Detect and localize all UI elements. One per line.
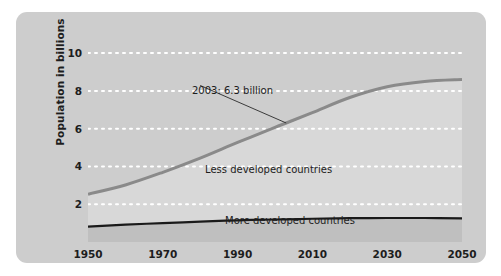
chart-screenshot: Population in billions 246810 Less devel…	[0, 0, 501, 276]
x-axis-ticks: 195019701990201020302050	[88, 248, 462, 264]
x-tick-label-1970: 1970	[148, 248, 177, 260]
x-tick-label-2050: 2050	[447, 248, 476, 260]
y-tick-label-2: 2	[56, 198, 82, 210]
y-tick-label-10: 10	[56, 47, 82, 59]
annotation-label-2003: 2003: 6.3 billion	[192, 85, 273, 96]
x-tick-label-1950: 1950	[73, 248, 102, 260]
y-axis-ticks: 246810	[54, 38, 82, 242]
series-label-less-developed: Less developed countries	[205, 164, 332, 175]
x-tick-label-2010: 2010	[298, 248, 327, 260]
chart-svg	[88, 38, 462, 242]
y-tick-label-6: 6	[56, 123, 82, 135]
y-tick-label-4: 4	[56, 160, 82, 172]
chart-panel: Population in billions 246810 Less devel…	[16, 12, 486, 263]
x-tick-label-2030: 2030	[373, 248, 402, 260]
y-tick-label-8: 8	[56, 85, 82, 97]
series-label-more-developed: More developed countries	[225, 215, 355, 226]
x-tick-label-1990: 1990	[223, 248, 252, 260]
plot-area: Less developed countries More developed …	[88, 38, 462, 242]
